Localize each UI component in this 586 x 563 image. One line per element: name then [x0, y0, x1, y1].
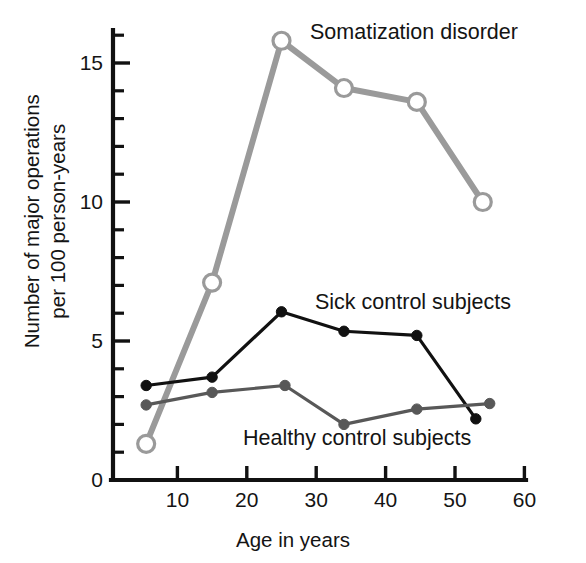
- x-axis-tick-label: 60: [494, 489, 554, 510]
- y-axis-tick-label: 0: [51, 469, 103, 490]
- series-label-3: Healthy control subjects: [243, 428, 471, 450]
- chart-axes: [111, 30, 526, 480]
- x-axis-tick-label: 20: [217, 489, 277, 510]
- x-axis-tick-label: 30: [286, 489, 346, 510]
- y-axis-title: Number of major operations per 100 perso…: [19, 71, 71, 371]
- x-axis-tick-label: 40: [356, 489, 416, 510]
- x-axis-title: Age in years: [0, 528, 586, 552]
- y-axis-title-line-1: Number of major operations: [19, 71, 45, 371]
- series-label-1: Somatization disorder: [310, 22, 518, 44]
- y-axis-title-line-2: per 100 person-years: [45, 71, 71, 371]
- chart-series: [138, 32, 495, 452]
- x-axis-tick-label: 10: [147, 489, 207, 510]
- y-axis-tick-label: 15: [51, 52, 103, 73]
- chart-figure: 051015102030405060 Somatization disorder…: [0, 0, 586, 563]
- x-axis-tick-label: 50: [425, 489, 485, 510]
- series-label-2: Sick control subjects: [315, 292, 511, 314]
